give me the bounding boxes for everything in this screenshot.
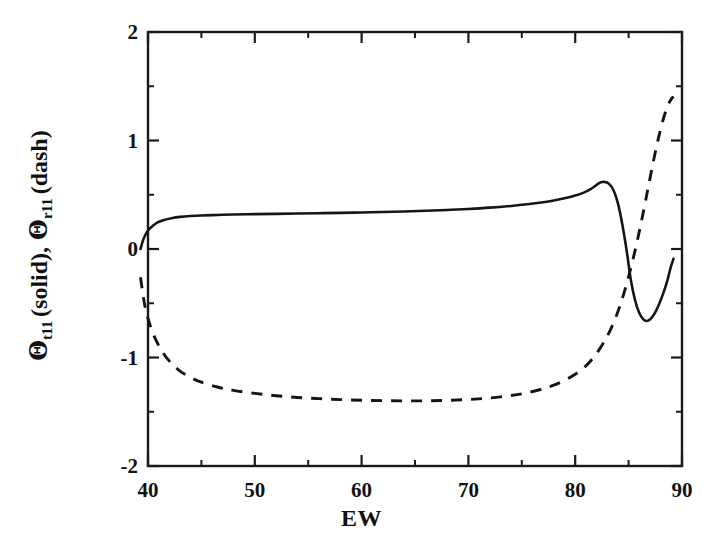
- x-tick-label: 80: [565, 480, 586, 501]
- y-tick-label: -1: [102, 347, 138, 368]
- data-series: [141, 97, 674, 401]
- subscript-t: t11: [39, 321, 55, 340]
- y-tick-label: 0: [102, 239, 138, 260]
- x-tick-label: 70: [458, 480, 479, 501]
- series-line-solid: [141, 182, 674, 321]
- sub-r-letter: r: [39, 212, 55, 219]
- dash-note: (dash): [26, 130, 52, 194]
- subscript-r: r11: [39, 198, 55, 219]
- figure-panel: 405060708090 210-1-2 EW Θt11(solid),Θr11…: [0, 0, 723, 553]
- y-axis-title: Θt11(solid),Θr11(dash): [24, 26, 55, 466]
- x-tick-label: 60: [351, 480, 372, 501]
- theta-symbol-r: Θ: [24, 219, 53, 240]
- x-axis-title: EW: [0, 505, 723, 532]
- sub-t-index: 11: [39, 321, 55, 335]
- x-tick-label: 50: [244, 480, 265, 501]
- y-tick-label: 2: [102, 22, 138, 43]
- y-tick-label: -2: [102, 456, 138, 477]
- x-tick-label: 90: [672, 480, 693, 501]
- sub-r-index: 11: [39, 198, 55, 212]
- theta-symbol-t: Θ: [24, 340, 53, 361]
- series-line-dashed: [141, 97, 674, 401]
- y-tick-label: 1: [102, 130, 138, 151]
- solid-note: (solid),: [26, 247, 52, 317]
- x-tick-label: 40: [138, 480, 159, 501]
- sub-t-letter: t: [39, 335, 55, 340]
